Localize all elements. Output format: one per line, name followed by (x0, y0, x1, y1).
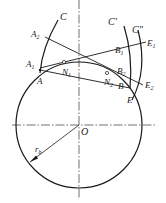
involute-curve-c (40, 20, 58, 73)
label-e1: E1 (146, 38, 156, 49)
label-c: C (60, 11, 67, 22)
involute-diagram: C C′ C″ A2 A1 A N1 N2 B1 B2 B E1 E2 E O … (0, 0, 166, 203)
label-c-prime: C′ (108, 16, 118, 27)
point-n1 (62, 60, 65, 63)
label-center-o: O (81, 126, 88, 137)
label-a: A (36, 76, 43, 86)
involute-curve-c-double-prime (132, 30, 142, 100)
label-e: E (126, 95, 133, 105)
label-a1: A1 (25, 59, 35, 70)
label-n2: N2 (103, 77, 113, 88)
label-b1: B1 (115, 45, 124, 56)
label-a2: A2 (30, 29, 40, 40)
label-n1: N1 (61, 67, 71, 78)
label-b: B (118, 81, 124, 91)
label-c-double-prime: C″ (132, 24, 144, 35)
label-radius: rb (35, 144, 42, 155)
point-a (39, 69, 41, 71)
label-b2: B2 (117, 66, 126, 77)
label-e2: E2 (144, 80, 154, 91)
point-n2 (105, 71, 108, 74)
